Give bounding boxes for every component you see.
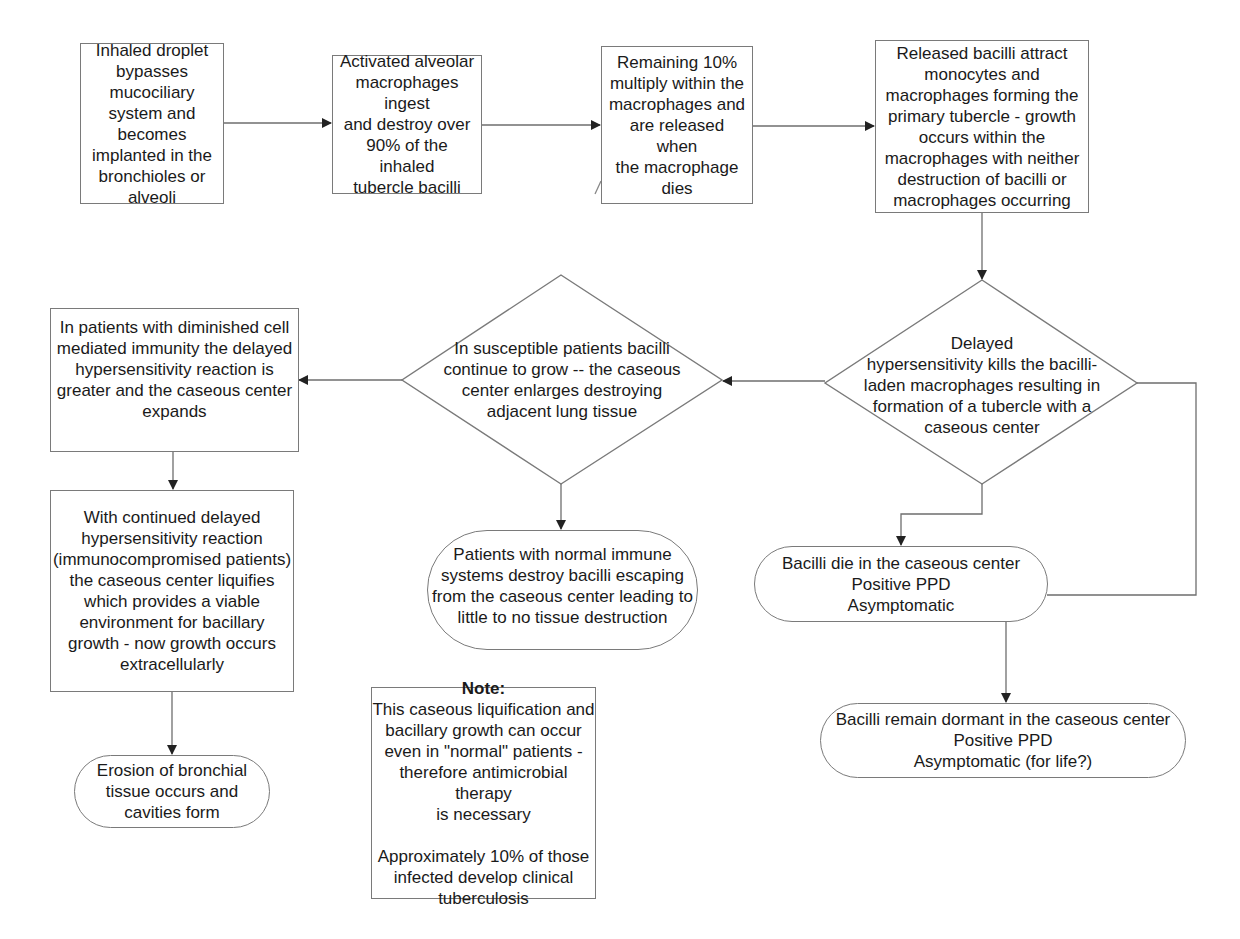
decision-text: In susceptible patients bacilli continue… [443, 338, 680, 422]
process-inhaled-droplet: Inhaled droplet bypasses mucociliary sys… [80, 43, 224, 204]
process-remaining-multiply: Remaining 10% multiply within the macrop… [601, 46, 753, 204]
process-liquifies: With continued delayed hypersensitivity … [50, 490, 294, 692]
terminal-bacilli-die: Bacilli die in the caseous center Positi… [754, 546, 1048, 622]
process-diminished-immunity: In patients with diminished cell mediate… [50, 308, 299, 452]
process-text: With continued delayed hypersensitivity … [53, 507, 291, 675]
process-text: Released bacilli attract monocytes and m… [881, 41, 1084, 213]
arrow-delayed-to-die [901, 484, 982, 545]
note-box: Note: This caseous liquification and bac… [371, 687, 596, 899]
process-text: Inhaled droplet bypasses mucociliary sys… [81, 36, 223, 212]
decision-susceptible-patients: In susceptible patients bacilli continue… [420, 330, 704, 430]
process-text: In patients with diminished cell mediate… [57, 317, 292, 444]
decision-delayed-hypersensitivity: Delayed hypersensitivity kills the bacil… [845, 330, 1119, 440]
terminal-text: Bacilli remain dormant in the caseous ce… [830, 705, 1177, 776]
terminal-erosion: Erosion of bronchial tissue occurs and c… [74, 755, 270, 828]
decision-text: Delayed hypersensitivity kills the bacil… [864, 333, 1100, 438]
process-macrophages-ingest: Activated alveolar macrophages ingest an… [332, 55, 482, 194]
terminal-text: Bacilli die in the caseous center Positi… [776, 549, 1026, 620]
note-body: This caseous liquification and bacillary… [372, 699, 595, 909]
process-primary-tubercle: Released bacilli attract monocytes and m… [875, 40, 1089, 213]
process-text: Activated alveolar macrophages ingest an… [333, 47, 481, 202]
process-text: Remaining 10% multiply within the macrop… [602, 48, 752, 203]
terminal-text: Patients with normal immune systems dest… [432, 544, 693, 636]
note-title: Note: [462, 678, 505, 699]
terminal-text: Erosion of bronchial tissue occurs and c… [91, 756, 253, 827]
terminal-dormant: Bacilli remain dormant in the caseous ce… [820, 703, 1186, 778]
terminal-normal-immune: Patients with normal immune systems dest… [427, 530, 698, 650]
